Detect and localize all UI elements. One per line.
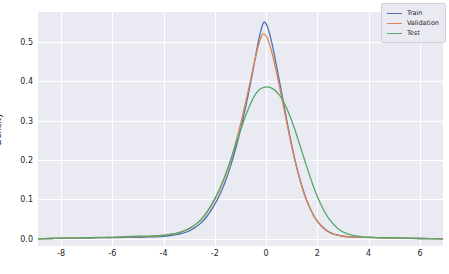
x-tick-label: -8 (46, 249, 76, 258)
y-tick-label: 0.1 (0, 195, 33, 204)
legend-label: Validation (407, 18, 439, 28)
y-tick-label: 0.2 (0, 155, 33, 164)
x-tick-label: -6 (97, 249, 127, 258)
density-plot-figure: Density 0.00.10.20.30.40.5 -8-6-4-20246 … (0, 0, 449, 274)
legend-item[interactable]: Train (387, 8, 439, 18)
legend-line-icon (387, 23, 402, 24)
y-tick-label: 0.4 (0, 77, 33, 86)
y-tick-label: 0.3 (0, 116, 33, 125)
plot-area (38, 12, 443, 246)
density-curves (38, 12, 443, 246)
legend-item[interactable]: Test (387, 28, 439, 38)
legend[interactable]: TrainValidationTest (381, 3, 446, 43)
x-tick-label: -2 (200, 249, 230, 258)
x-tick-label: 2 (302, 249, 332, 258)
y-tick-label: 0.5 (0, 37, 33, 46)
x-tick-label: 4 (354, 249, 384, 258)
legend-line-icon (387, 13, 402, 14)
x-tick-label: 6 (405, 249, 435, 258)
x-tick-label: 0 (251, 249, 281, 258)
x-tick-label: -4 (149, 249, 179, 258)
legend-label: Train (407, 8, 423, 18)
legend-line-icon (387, 33, 402, 34)
y-tick-label: 0.0 (0, 234, 33, 243)
legend-label: Test (407, 28, 420, 38)
density-curve (38, 87, 443, 239)
density-curve (38, 34, 443, 239)
legend-item[interactable]: Validation (387, 18, 439, 28)
